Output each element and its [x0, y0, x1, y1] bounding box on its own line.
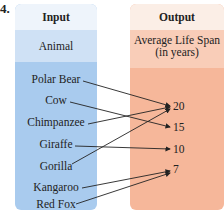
- mapping-arrows: [0, 0, 224, 213]
